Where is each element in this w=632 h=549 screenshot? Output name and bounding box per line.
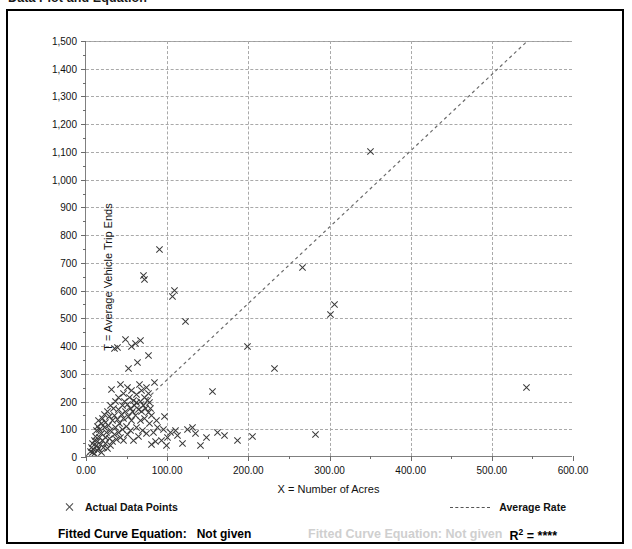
- data-point-marker: [310, 430, 319, 439]
- data-point-marker: [110, 411, 119, 420]
- gridline-horizontal: [86, 263, 572, 264]
- data-point-marker: [107, 416, 116, 425]
- y-axis-tick-label: 1,400: [52, 63, 77, 74]
- x-axis-minor-tick: [208, 456, 209, 459]
- data-point-marker: [120, 335, 129, 344]
- data-point-marker: [270, 364, 279, 373]
- data-point-marker: [91, 441, 100, 450]
- y-axis-minor-tick: [83, 138, 86, 139]
- data-point-marker: [125, 404, 134, 413]
- legend-label-average-rate: Average Rate: [499, 501, 566, 513]
- y-axis-tick: [81, 429, 86, 430]
- gridline-vertical: [492, 41, 493, 456]
- data-point-marker: [125, 426, 134, 435]
- data-point-marker: [116, 380, 125, 389]
- legend-item-actual-data-points: Actual Data Points: [64, 501, 178, 513]
- data-point-marker: [190, 429, 199, 438]
- gridline-horizontal: [86, 235, 572, 236]
- x-axis-tick: [573, 456, 574, 461]
- r-squared-exponent: 2: [519, 527, 524, 537]
- data-point-marker: [127, 386, 136, 395]
- data-point-marker: [125, 393, 134, 402]
- data-point-marker: [124, 364, 133, 373]
- gridline-horizontal: [86, 207, 572, 208]
- y-axis-tick: [81, 207, 86, 208]
- data-point-marker: [112, 435, 121, 444]
- data-point-marker: [143, 408, 152, 417]
- data-point-marker: [103, 421, 112, 430]
- y-axis-tick-label: 800: [60, 230, 77, 241]
- fitted-curve-equation: Fitted Curve Equation: Not given: [58, 527, 251, 541]
- data-point-marker: [127, 416, 136, 425]
- gridline-horizontal: [86, 402, 572, 403]
- data-point-marker: [122, 383, 131, 392]
- plot-inner-canvas: [86, 41, 572, 456]
- y-axis-tick-label: 100: [60, 424, 77, 435]
- data-point-marker: [150, 437, 159, 446]
- data-point-marker: [177, 439, 186, 448]
- dashed-line-icon: [450, 507, 490, 508]
- data-point-marker: [91, 426, 100, 435]
- data-point-marker: [104, 434, 113, 443]
- data-point-marker: [202, 433, 211, 442]
- data-point-marker: [137, 407, 146, 416]
- data-point-marker: [92, 446, 101, 455]
- data-point-marker: [113, 405, 122, 414]
- y-axis-tick: [81, 152, 86, 153]
- data-point-marker: [114, 428, 123, 437]
- x-axis-tick: [86, 456, 87, 461]
- data-point-marker: [106, 426, 115, 435]
- y-axis-tick: [81, 124, 86, 125]
- data-point-marker: [131, 390, 140, 399]
- data-point-marker: [90, 432, 99, 441]
- y-axis-title: T = Average Vehicle Trip Ends: [102, 203, 114, 350]
- data-point-marker: [133, 432, 142, 441]
- data-point-marker: [93, 437, 102, 446]
- data-point-marker: [124, 412, 133, 421]
- data-point-marker: [155, 245, 164, 254]
- data-point-marker: [94, 444, 103, 453]
- data-point-marker: [139, 393, 148, 402]
- x-axis-title: X = Number of Acres: [85, 483, 572, 495]
- data-point-marker: [107, 437, 116, 446]
- data-point-marker: [183, 425, 192, 434]
- y-axis-tick-label: 1,000: [52, 174, 77, 185]
- x-axis-tick-label: 400.00: [395, 465, 426, 476]
- data-point-marker: [143, 351, 152, 360]
- data-point-marker: [168, 292, 177, 301]
- gridline-vertical: [330, 41, 331, 456]
- y-axis-tick-label: 0: [71, 452, 77, 463]
- x-axis-tick-label: 0.00: [76, 465, 95, 476]
- data-point-marker: [163, 433, 172, 442]
- average-rate-trend-line: [86, 41, 572, 456]
- data-point-marker: [98, 414, 107, 423]
- data-point-marker: [153, 423, 162, 432]
- data-point-marker: [248, 432, 257, 441]
- data-point-marker: [142, 396, 151, 405]
- data-point-marker: [325, 310, 334, 319]
- data-point-marker: [103, 407, 112, 416]
- x-axis-tick: [330, 456, 331, 461]
- r-squared-label: R: [510, 529, 519, 543]
- chart-plot-area: 01002003004005006007008009001,0001,1001,…: [85, 41, 572, 457]
- data-point-marker: [104, 412, 113, 421]
- y-axis-tick-label: 400: [60, 341, 77, 352]
- data-point-marker: [118, 389, 127, 398]
- gridline-horizontal: [86, 96, 572, 97]
- y-axis-tick: [81, 69, 86, 70]
- data-point-marker: [95, 440, 104, 449]
- y-axis-tick-label: 600: [60, 285, 77, 296]
- x-axis-tick: [248, 456, 249, 461]
- x-axis-minor-tick: [370, 456, 371, 459]
- data-point-marker: [120, 407, 129, 416]
- data-point-marker: [119, 414, 128, 423]
- gridline-horizontal: [86, 180, 572, 181]
- legend-label-actual-data-points: Actual Data Points: [85, 501, 178, 513]
- data-point-marker: [132, 423, 141, 432]
- data-point-marker: [148, 428, 157, 437]
- data-point-marker: [88, 439, 97, 448]
- y-axis-tick-label: 1,300: [52, 91, 77, 102]
- data-point-marker: [126, 342, 135, 351]
- data-point-marker: [111, 423, 120, 432]
- fitted-curve-equation-value: Not given: [197, 527, 252, 541]
